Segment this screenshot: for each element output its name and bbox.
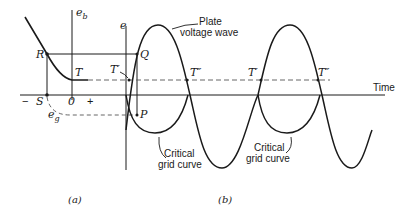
point-r-dot <box>45 52 49 56</box>
point-r-label: R <box>35 48 44 61</box>
point-p-dot <box>136 114 139 117</box>
point-q-label: Q <box>140 48 149 61</box>
critical-2-label-2: grid curve <box>246 153 290 164</box>
t-dblprime-dot-1 <box>186 79 189 82</box>
t-dblprime-label-1: T″ <box>190 66 202 79</box>
t-prime-label-2: T′ <box>248 66 258 79</box>
caption-a: (a) <box>68 194 82 205</box>
point-p-label: P <box>139 108 148 121</box>
origin-label: 0 <box>68 95 75 108</box>
t-prime-dot-2 <box>260 79 263 82</box>
diagram-canvas: eb e R T S − 0 + eg Q P T′ T″ T′ T″ Time… <box>0 0 412 219</box>
eb-axis-label: eb <box>76 6 88 21</box>
t-prime-dot-1 <box>128 79 131 82</box>
t-dblprime-label-2: T″ <box>318 66 330 79</box>
critical-grid-curve-1 <box>126 95 188 133</box>
plate-voltage-wave <box>126 25 372 168</box>
plus-sign: + <box>87 95 93 107</box>
critical-grid-curve-2 <box>258 95 320 133</box>
time-label: Time <box>373 82 395 93</box>
eg-label: eg <box>48 108 60 123</box>
point-t-label: T <box>75 66 84 79</box>
critical-2-label-1: Critical <box>254 142 285 153</box>
point-s-dot <box>45 93 49 97</box>
plate-wave-label-2: voltage wave <box>180 27 239 38</box>
critical-1-label-2: grid curve <box>158 159 202 170</box>
critical-1-label-1: Critical <box>164 148 195 159</box>
t-prime-label-1: T′ <box>110 63 120 76</box>
point-q-dot <box>136 53 139 56</box>
e-axis-label: e <box>120 19 127 32</box>
critical-2-arrow <box>286 137 291 153</box>
minus-sign: − <box>22 95 28 107</box>
caption-b: (b) <box>218 194 232 205</box>
t-prime-arrow <box>120 72 128 78</box>
plate-wave-label-1: Plate <box>199 16 222 27</box>
point-s-label: S <box>36 95 44 108</box>
